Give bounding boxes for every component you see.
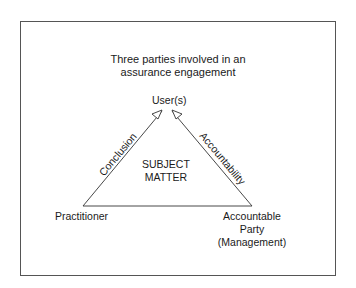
center-label: SUBJECT MATTER xyxy=(142,158,190,184)
conclusion-arrowhead-icon xyxy=(152,110,162,119)
triangle-diagram xyxy=(0,0,356,288)
node-users: User(s) xyxy=(152,94,186,107)
node-accountable-party: Accountable Party (Management) xyxy=(216,210,288,249)
center-line-2: MATTER xyxy=(142,171,190,184)
accountable-line-1: Accountable xyxy=(216,210,288,223)
accountable-line-3: (Management) xyxy=(216,236,288,249)
center-line-1: SUBJECT xyxy=(142,158,190,171)
accountability-arrowhead-icon xyxy=(172,110,182,119)
node-practitioner: Practitioner xyxy=(55,210,108,223)
accountable-line-2: Party xyxy=(216,223,288,236)
